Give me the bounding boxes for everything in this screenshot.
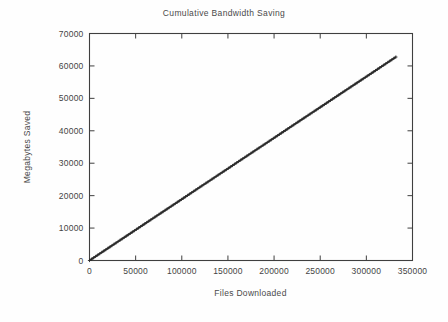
y-axis-label-wrapper: Megabytes Saved <box>18 33 36 260</box>
x-tick-label: 50000 <box>123 266 148 276</box>
chart-figure: Cumulative Bandwidth Saving 010000200003… <box>0 0 448 322</box>
x-tick-label: 100000 <box>167 266 197 276</box>
y-tick-label: 0 <box>79 256 84 266</box>
tick-marks <box>90 34 413 261</box>
y-tick-label: 60000 <box>59 61 84 71</box>
data-series-markers <box>88 55 398 262</box>
x-tick-label: 350000 <box>398 266 428 276</box>
y-axis-label: Megabytes Saved <box>22 110 32 183</box>
y-tick-label: 40000 <box>59 126 84 136</box>
x-tick-label: 150000 <box>213 266 243 276</box>
x-axis-label: Files Downloaded <box>89 288 412 298</box>
x-tick-label: 200000 <box>259 266 289 276</box>
y-tick-label: 30000 <box>59 158 84 168</box>
y-tick-label: 20000 <box>59 191 84 201</box>
x-tick-label: 250000 <box>305 266 335 276</box>
x-tick-label: 0 <box>87 266 92 276</box>
y-tick-label: 50000 <box>59 93 84 103</box>
y-tick-label: 10000 <box>59 223 84 233</box>
y-tick-label: 70000 <box>59 29 84 39</box>
plot-frame <box>90 34 413 261</box>
x-tick-label: 300000 <box>352 266 382 276</box>
